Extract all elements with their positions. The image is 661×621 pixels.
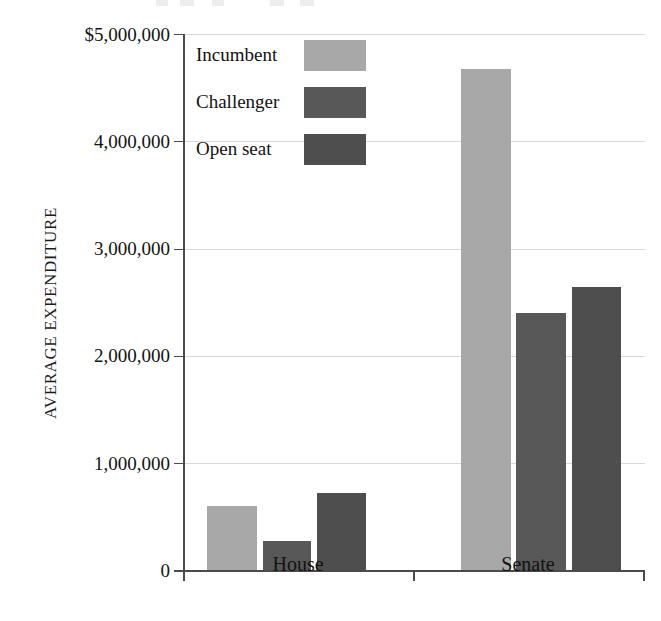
gridline (183, 34, 645, 35)
bar-senate-challenger (516, 313, 566, 570)
gridline (183, 249, 645, 250)
legend-item-open-seat: Open seat (196, 132, 371, 166)
y-tick-label: 3,000,000 (20, 239, 170, 258)
legend-swatch-incumbent (304, 40, 366, 71)
bar-senate-open-seat (572, 287, 621, 570)
legend-item-challenger: Challenger (196, 85, 371, 119)
x-axis-end-cap (643, 570, 645, 581)
y-tick-mark (174, 570, 183, 572)
legend-label: Open seat (196, 138, 304, 160)
y-axis-tick-labels: $5,000,000 4,000,000 3,000,000 2,000,000… (20, 0, 170, 621)
y-tick-mark (174, 141, 183, 142)
y-tick-label: $5,000,000 (20, 25, 170, 44)
y-tick-mark (174, 463, 183, 464)
y-tick-mark (174, 34, 183, 35)
x-category-label-house: House (183, 553, 413, 576)
legend-label: Incumbent (196, 44, 304, 66)
legend-label: Challenger (196, 91, 304, 113)
legend-item-incumbent: Incumbent (196, 38, 371, 72)
legend: Incumbent Challenger Open seat (196, 38, 371, 179)
y-tick-label: 2,000,000 (20, 346, 170, 365)
y-tick-mark (174, 249, 183, 250)
y-tick-label: 4,000,000 (20, 132, 170, 151)
x-category-label-senate: Senate (413, 553, 643, 576)
bar-senate-incumbent (461, 69, 511, 570)
legend-swatch-open-seat (304, 134, 366, 165)
bar-chart: AVERAGE EXPENDITURE $5,000,000 4,000,000… (0, 0, 661, 621)
y-tick-mark (174, 356, 183, 357)
scan-artifact (150, 0, 410, 6)
y-tick-label: 0 (20, 561, 170, 580)
legend-swatch-challenger (304, 87, 366, 118)
y-tick-label: 1,000,000 (20, 454, 170, 473)
y-axis-line (183, 34, 185, 570)
